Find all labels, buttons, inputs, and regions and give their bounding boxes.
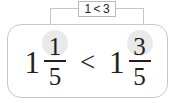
leader-line-right-horizontal — [115, 8, 144, 9]
leader-line-left-horizontal — [50, 8, 79, 9]
left-denominator: 5 — [49, 62, 62, 89]
right-mixed-number: 1 3 5 — [109, 34, 151, 89]
expression-row: 1 1 5 < 1 3 5 — [7, 24, 168, 98]
left-numerator: 1 — [49, 34, 62, 60]
right-denominator: 5 — [133, 62, 146, 89]
left-fraction: 1 5 — [44, 34, 66, 89]
right-fraction: 3 5 — [129, 34, 151, 89]
fraction-comparison-figure: 1 < 3 1 1 5 < 1 3 5 — [0, 0, 175, 103]
comparison-operator: < — [80, 49, 95, 76]
left-mixed-number: 1 1 5 — [24, 34, 66, 89]
numerator-comparison-callout: 1 < 3 — [78, 1, 116, 17]
callout-label: 1 < 3 — [84, 3, 109, 15]
right-numerator: 3 — [133, 34, 146, 60]
left-whole-number: 1 — [24, 47, 40, 78]
right-whole-number: 1 — [109, 47, 125, 78]
